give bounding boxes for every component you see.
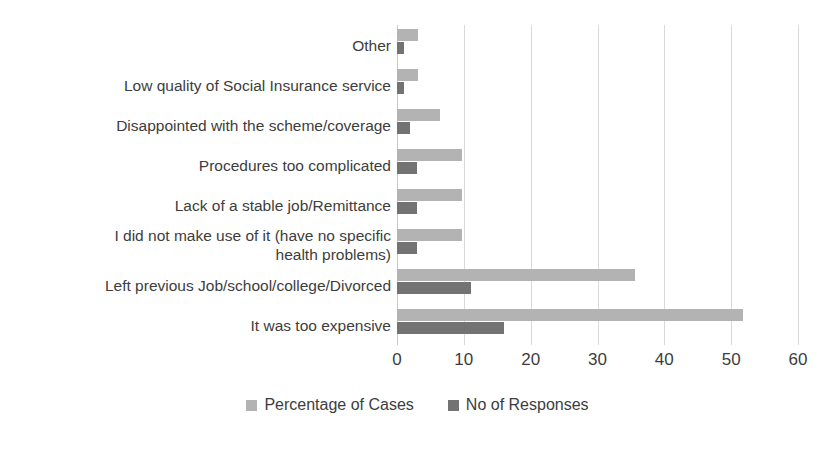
bar-no-of-responses[interactable] — [397, 82, 404, 94]
category-label: Procedures too complicated — [8, 156, 391, 175]
bar-group — [397, 185, 798, 225]
bar-group — [397, 105, 798, 145]
chart-legend: Percentage of CasesNo of Responses — [0, 396, 835, 414]
x-tick-label: 0 — [392, 350, 401, 370]
legend-swatch-icon — [448, 400, 459, 411]
bar-group — [397, 65, 798, 105]
category-label: Lack of a stable job/Remittance — [8, 196, 391, 215]
bar-group — [397, 25, 798, 65]
bar-no-of-responses[interactable] — [397, 202, 417, 214]
bar-no-of-responses[interactable] — [397, 322, 504, 334]
bar-chart: OtherLow quality of Social Insurance ser… — [0, 0, 835, 453]
legend-swatch-icon — [246, 400, 257, 411]
x-tick-label: 10 — [454, 350, 473, 370]
category-label: It was too expensive — [8, 316, 391, 335]
x-tick-label: 40 — [655, 350, 674, 370]
legend-label: No of Responses — [466, 396, 589, 414]
bar-no-of-responses[interactable] — [397, 282, 471, 294]
x-tick-label: 30 — [588, 350, 607, 370]
legend-item[interactable]: Percentage of Cases — [246, 396, 413, 414]
bar-percentage-of-cases[interactable] — [397, 309, 743, 321]
bar-group — [397, 305, 798, 345]
category-label: Low quality of Social Insurance service — [8, 76, 391, 95]
gridline — [798, 25, 799, 345]
category-label: I did not make use of it (have no specif… — [8, 226, 391, 264]
bar-percentage-of-cases[interactable] — [397, 269, 635, 281]
bar-group — [397, 225, 798, 265]
bar-percentage-of-cases[interactable] — [397, 29, 418, 41]
bar-percentage-of-cases[interactable] — [397, 69, 418, 81]
bar-group — [397, 265, 798, 305]
legend-label: Percentage of Cases — [264, 396, 413, 414]
bar-percentage-of-cases[interactable] — [397, 149, 462, 161]
x-tick-label: 50 — [722, 350, 741, 370]
bar-no-of-responses[interactable] — [397, 122, 410, 134]
x-axis-tick-labels: 0102030405060 — [397, 350, 798, 380]
bar-no-of-responses[interactable] — [397, 162, 417, 174]
bar-no-of-responses[interactable] — [397, 242, 417, 254]
bar-percentage-of-cases[interactable] — [397, 109, 440, 121]
plot-area — [397, 25, 798, 345]
x-tick-label: 20 — [521, 350, 540, 370]
category-label: Disappointed with the scheme/coverage — [8, 116, 391, 135]
category-label: Other — [8, 36, 391, 55]
legend-item[interactable]: No of Responses — [448, 396, 589, 414]
category-label: Left previous Job/school/college/Divorce… — [8, 276, 391, 295]
x-tick-label: 60 — [789, 350, 808, 370]
bar-group — [397, 145, 798, 185]
bar-percentage-of-cases[interactable] — [397, 189, 462, 201]
bar-percentage-of-cases[interactable] — [397, 229, 462, 241]
category-axis-labels: OtherLow quality of Social Insurance ser… — [8, 25, 391, 345]
bar-no-of-responses[interactable] — [397, 42, 404, 54]
